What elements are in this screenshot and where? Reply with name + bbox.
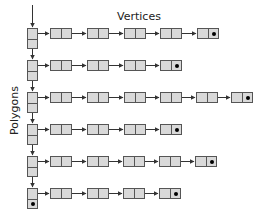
vertex-node — [159, 156, 181, 167]
vertex-node — [87, 28, 109, 39]
vertex-node — [195, 156, 217, 167]
vertex-node — [123, 188, 145, 199]
node-divider — [98, 189, 99, 198]
null-pointer-icon — [212, 32, 216, 36]
node-divider — [28, 39, 37, 40]
node-divider — [61, 157, 62, 166]
node-divider — [171, 29, 172, 38]
node-divider — [171, 93, 172, 102]
node-divider — [61, 189, 62, 198]
node-divider — [28, 167, 37, 168]
polygon-node — [27, 92, 38, 113]
null-pointer-icon — [174, 192, 178, 196]
node-divider — [207, 93, 208, 102]
vertex-node — [50, 188, 72, 199]
node-divider — [206, 157, 207, 166]
polygon-vertex-linked-list-diagram: Vertices Polygons — [0, 0, 262, 218]
vertex-node — [124, 92, 146, 103]
null-pointer-icon — [31, 202, 35, 206]
node-divider — [61, 125, 62, 134]
node-divider — [98, 61, 99, 70]
vertex-node — [87, 92, 109, 103]
vertex-node — [87, 124, 109, 135]
node-divider — [170, 189, 171, 198]
node-divider — [135, 29, 136, 38]
node-divider — [98, 29, 99, 38]
node-divider — [171, 125, 172, 134]
vertices-axis-label: Vertices — [117, 10, 161, 23]
vertex-node — [160, 28, 182, 39]
node-divider — [28, 199, 37, 200]
vertex-node — [123, 156, 145, 167]
node-divider — [134, 157, 135, 166]
node-divider — [28, 103, 37, 104]
null-pointer-icon — [210, 160, 214, 164]
node-divider — [61, 93, 62, 102]
node-divider — [98, 93, 99, 102]
vertex-node — [50, 60, 72, 71]
vertex-node — [124, 60, 146, 71]
vertex-node — [50, 92, 72, 103]
vertex-node — [159, 188, 181, 199]
polygon-node — [27, 188, 38, 209]
node-divider — [28, 71, 37, 72]
polygon-node — [27, 156, 38, 177]
vertex-node — [160, 60, 182, 71]
vertex-node — [87, 188, 109, 199]
vertex-node — [196, 92, 218, 103]
vertex-node — [50, 28, 72, 39]
vertex-node — [50, 124, 72, 135]
node-divider — [61, 61, 62, 70]
vertex-node — [87, 156, 109, 167]
vertex-node — [160, 92, 182, 103]
null-pointer-icon — [175, 128, 179, 132]
vertex-node — [124, 28, 146, 39]
node-divider — [28, 135, 37, 136]
vertex-node — [197, 28, 219, 39]
vertex-node — [124, 124, 146, 135]
node-divider — [98, 157, 99, 166]
node-divider — [170, 157, 171, 166]
vertex-node — [87, 60, 109, 71]
polygon-node — [27, 28, 38, 49]
node-divider — [134, 189, 135, 198]
node-divider — [242, 93, 243, 102]
node-divider — [135, 93, 136, 102]
node-divider — [135, 61, 136, 70]
node-divider — [98, 125, 99, 134]
polygons-axis-label: Polygons — [8, 83, 21, 139]
polygon-node — [27, 124, 38, 145]
vertex-node — [50, 156, 72, 167]
node-divider — [208, 29, 209, 38]
null-pointer-icon — [175, 64, 179, 68]
node-divider — [135, 125, 136, 134]
vertex-node — [231, 92, 253, 103]
null-pointer-icon — [246, 96, 250, 100]
polygon-node — [27, 60, 38, 81]
node-divider — [61, 29, 62, 38]
node-divider — [171, 61, 172, 70]
vertex-node — [160, 124, 182, 135]
